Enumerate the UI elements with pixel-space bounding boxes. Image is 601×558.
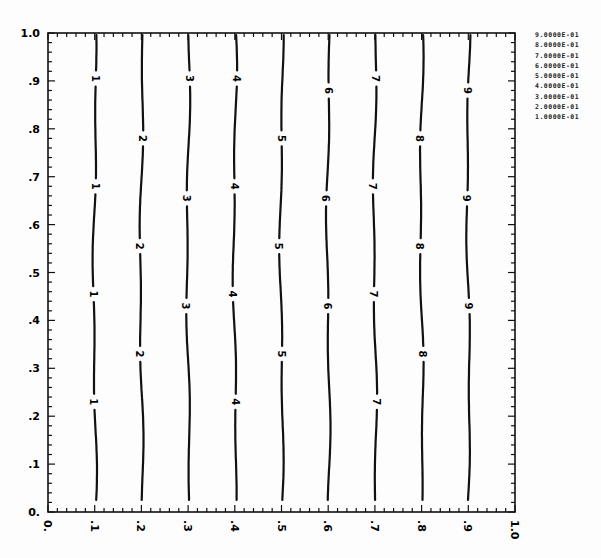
x-tick-label: .2	[134, 520, 147, 532]
contour-label: 7	[368, 291, 379, 298]
contour-label: 7	[371, 398, 382, 405]
y-tick-label: 1.0	[21, 27, 41, 40]
x-tick-label: .5	[275, 520, 288, 532]
contour-plot: 111122233344445556667777888999 0..1.2.3.…	[0, 0, 601, 558]
contour-label: 9	[461, 195, 472, 202]
x-tick-label: .1	[88, 520, 101, 532]
y-tick-label: .4	[28, 314, 40, 327]
y-tick-label: 0.	[28, 506, 40, 519]
contour-label: 1	[90, 183, 101, 190]
contour-label: 1	[88, 291, 99, 298]
contour-line-8: 888	[414, 35, 428, 500]
contour-label: 8	[417, 350, 428, 357]
legend-entry: 8.0000E-01	[535, 40, 579, 50]
contour-label: 4	[229, 183, 240, 190]
contour-label: 2	[134, 350, 145, 357]
y-tick-label: .6	[28, 219, 40, 232]
contour-line-2: 222	[134, 35, 148, 500]
contour-line-7: 7777	[367, 35, 382, 500]
contour-label: 6	[322, 303, 333, 310]
y-tick-label: .3	[28, 362, 40, 375]
x-axis-tick-labels: 0..1.2.3.4.5.6.7.8.91.0	[41, 520, 521, 540]
contour-line-9: 999	[461, 35, 474, 500]
y-tick-label: .8	[28, 123, 40, 136]
legend-entry: 9.0000E-01	[535, 30, 579, 40]
contour-label: 5	[276, 350, 287, 357]
contour-label: 8	[414, 243, 425, 250]
x-tick-label: .4	[228, 520, 241, 532]
contour-label: 3	[180, 303, 191, 310]
legend-entry: 2.0000E-01	[535, 102, 579, 112]
contour-label: 1	[88, 398, 99, 405]
x-tick-label: 0.	[41, 520, 54, 532]
contour-label: 6	[320, 195, 331, 202]
contour-label: 4	[230, 398, 241, 405]
x-tick-label: .6	[321, 520, 334, 532]
contour-line-6: 666	[320, 35, 333, 500]
contour-label: 7	[367, 183, 378, 190]
contour-label: 9	[462, 87, 473, 94]
x-tick-label: .7	[368, 520, 381, 532]
y-tick-label: .7	[28, 171, 40, 184]
legend-entry: 4.0000E-01	[535, 81, 579, 91]
contour-lines: 111122233344445556667777888999	[88, 35, 475, 500]
x-tick-label: .8	[415, 520, 428, 532]
contour-line-4: 4444	[227, 35, 242, 500]
contour-level-legend: 9.0000E-018.0000E-017.0000E-016.0000E-01…	[535, 30, 579, 123]
contour-line-5: 555	[273, 35, 287, 500]
contour-label: 3	[184, 75, 195, 82]
contour-label: 9	[463, 303, 474, 310]
legend-entry: 3.0000E-01	[535, 92, 579, 102]
contour-label: 3	[181, 195, 192, 202]
contour-label: 1	[90, 75, 101, 82]
contour-label: 6	[323, 87, 334, 94]
contour-label: 2	[134, 243, 145, 250]
legend-entry: 7.0000E-01	[535, 51, 579, 61]
contour-label: 5	[273, 243, 284, 250]
y-axis-tick-labels: 0..1.2.3.4.5.6.7.8.91.0	[21, 27, 41, 519]
x-tick-label: .3	[181, 520, 194, 532]
contour-line-3: 333	[180, 35, 194, 500]
y-tick-label: .1	[28, 458, 40, 471]
contour-label: 4	[231, 75, 242, 82]
legend-entry: 5.0000E-01	[535, 71, 579, 81]
y-tick-label: .5	[28, 267, 40, 280]
contour-line-1: 1111	[88, 35, 101, 500]
contour-label: 5	[276, 135, 287, 142]
x-tick-label: .9	[461, 520, 474, 532]
contour-label: 7	[370, 75, 381, 82]
y-tick-label: .2	[28, 410, 40, 423]
contour-label: 4	[227, 291, 238, 298]
legend-entry: 1.0000E-01	[535, 112, 579, 122]
contour-label: 8	[414, 135, 425, 142]
y-tick-label: .9	[28, 75, 40, 88]
contour-label: 2	[137, 135, 148, 142]
legend-entry: 6.0000E-01	[535, 61, 579, 71]
x-tick-label: 1.0	[508, 520, 521, 540]
